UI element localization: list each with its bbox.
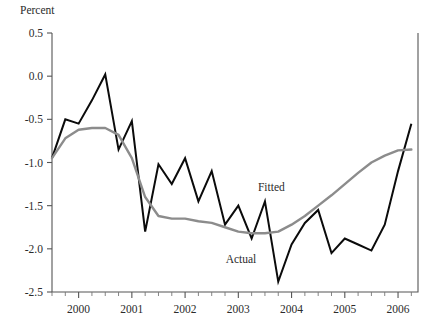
y-axis-unit-label: Percent — [20, 4, 55, 16]
y-axis-tick-label: 0.5 — [29, 27, 44, 39]
series-line-fitted — [52, 128, 411, 233]
chart-container: Percent0.50.0-0.5-1.0-1.5-2.0-2.52000200… — [0, 0, 429, 327]
x-axis-tick-label: 2006 — [387, 303, 410, 315]
x-axis-tick-label: 2001 — [120, 303, 143, 315]
y-axis-tick-label: -2.5 — [25, 286, 43, 298]
series-label-actual: Actual — [226, 253, 257, 265]
series-label-fitted: Fitted — [258, 181, 285, 193]
y-axis-tick-label: -0.5 — [25, 113, 43, 125]
y-axis-tick-label: 0.0 — [29, 70, 44, 82]
x-axis-tick-label: 2000 — [67, 303, 90, 315]
series-line-actual — [52, 74, 411, 281]
x-axis-tick-label: 2003 — [227, 303, 250, 315]
x-axis-tick-label: 2004 — [280, 303, 303, 315]
y-axis-tick-label: -1.0 — [25, 157, 43, 169]
line-chart: Percent0.50.0-0.5-1.0-1.5-2.0-2.52000200… — [0, 0, 429, 327]
x-axis-tick-label: 2005 — [333, 303, 356, 315]
y-axis-tick-label: -2.0 — [25, 243, 43, 255]
x-axis-tick-label: 2002 — [174, 303, 197, 315]
y-axis-tick-label: -1.5 — [25, 200, 43, 212]
